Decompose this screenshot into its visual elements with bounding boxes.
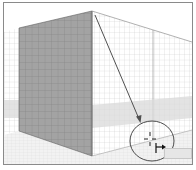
coordinates-tooltip [164, 148, 192, 159]
left-plane-selected[interactable] [19, 11, 92, 156]
left-background-grid [4, 28, 19, 135]
perspective-grid-canvas[interactable] [0, 0, 196, 170]
horizon-band-left [4, 100, 19, 118]
perspective-grid-drawing[interactable] [0, 0, 196, 170]
